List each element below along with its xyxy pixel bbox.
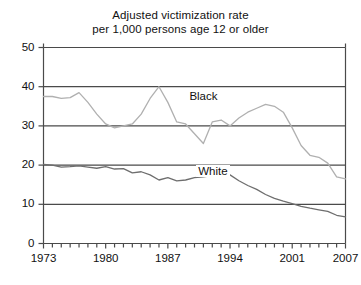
x-tick-label: 1980 [86, 252, 126, 264]
x-tick-label: 1987 [148, 252, 188, 264]
y-axis-ticks [39, 48, 44, 244]
x-tick-label: 1973 [24, 252, 64, 264]
x-tick-label: 2007 [326, 252, 361, 264]
x-tick-label: 2001 [272, 252, 312, 264]
series-line-white [44, 164, 346, 217]
x-axis-ticks [44, 244, 346, 249]
y-tick-label: 20 [13, 158, 35, 170]
series-label-black: Black [187, 90, 219, 102]
y-tick-label: 30 [13, 119, 35, 131]
y-tick-label: 40 [13, 80, 35, 92]
x-tick-label: 1994 [210, 252, 250, 264]
y-tick-label: 50 [13, 41, 35, 53]
data-series-group [44, 87, 346, 217]
chart-plot-area [0, 0, 361, 285]
y-tick-label: 0 [13, 237, 35, 249]
series-label-white: White [196, 165, 229, 177]
chart-figure: Adjusted victimization rate per 1,000 pe… [0, 0, 361, 285]
y-tick-label: 10 [13, 197, 35, 209]
